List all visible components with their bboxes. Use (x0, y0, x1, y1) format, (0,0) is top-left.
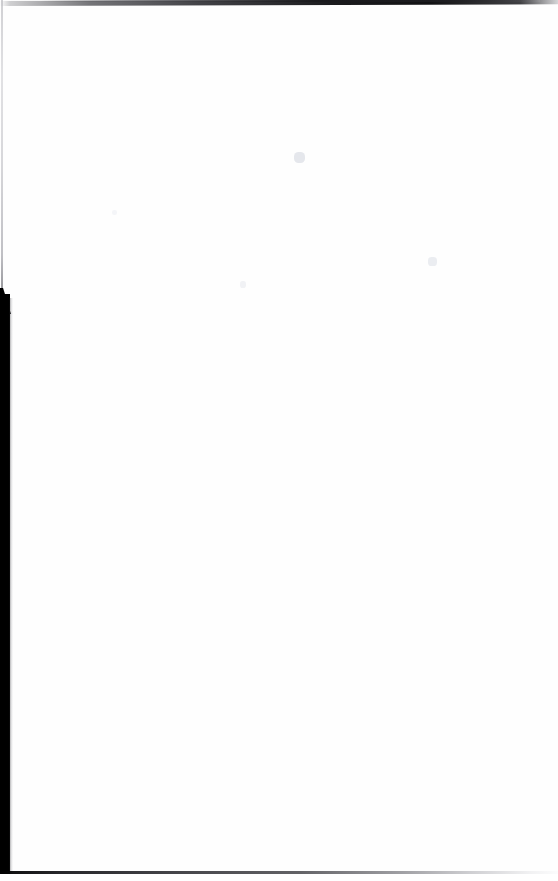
paper-surface (0, 0, 558, 881)
scanned-page (0, 0, 558, 881)
